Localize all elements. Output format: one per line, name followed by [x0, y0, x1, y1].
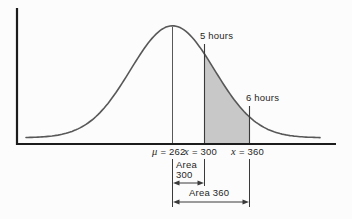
mean-axis-label: μ= 262 [152, 147, 186, 157]
area-360-label: Area 360 [189, 188, 229, 198]
mu-symbol: μ [152, 146, 157, 157]
area360-arrow [173, 199, 249, 204]
x300-symbol: x [184, 146, 189, 157]
area-300-label: Area 300 [176, 160, 197, 180]
annotation-6-hours: 6 hours [246, 93, 279, 103]
x300-axis-label: x= 300 [184, 147, 217, 157]
shaded-region-300-360 [205, 54, 250, 144]
area300-arrow [173, 180, 204, 185]
mu-value: = 262 [160, 146, 185, 157]
x300-value: = 300 [192, 146, 217, 157]
area-300-label-line2: 300 [176, 170, 197, 180]
curve-canvas [0, 0, 352, 219]
x360-value: = 360 [239, 146, 264, 157]
annotation-5-hours: 5 hours [200, 31, 233, 41]
x360-symbol: x [231, 146, 236, 157]
x360-axis-label: x= 360 [231, 147, 264, 157]
normal-distribution-figure: 5 hours 6 hours μ= 262 x= 300 x= 360 Are… [0, 0, 352, 219]
